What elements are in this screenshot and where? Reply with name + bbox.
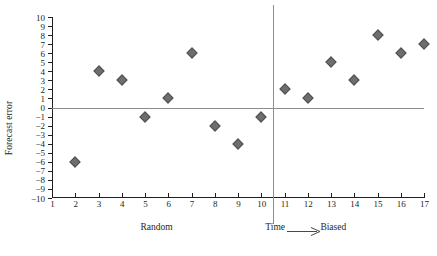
x-tick-label: 6 (167, 200, 172, 209)
x-tick-label: 4 (120, 200, 125, 209)
y-tick: 6 (48, 53, 52, 54)
x-tick-label: 16 (397, 200, 406, 209)
x-tick: 7 (192, 193, 193, 198)
x-tick: 12 (308, 193, 309, 198)
data-point (186, 48, 197, 59)
y-tick: −3 (48, 135, 52, 136)
x-tick: 13 (331, 193, 332, 198)
y-tick: −4 (48, 144, 52, 145)
x-tick: 15 (378, 193, 379, 198)
x-tick-label: 5 (143, 200, 148, 209)
data-point (372, 29, 383, 40)
x-tick: 3 (99, 193, 100, 198)
data-point (279, 84, 290, 95)
caption-random: Random (141, 222, 173, 232)
x-tick: 14 (354, 193, 355, 198)
y-tick: −2 (48, 126, 52, 127)
forecast-error-chart: Forecast error 109876543210−1−2−3−4−5−6−… (0, 0, 437, 256)
data-point (256, 111, 267, 122)
data-point (70, 156, 81, 167)
y-tick: 1 (48, 98, 52, 99)
y-tick: −1 (48, 117, 52, 118)
y-tick: 3 (48, 80, 52, 81)
y-axis-title: Forecast error (0, 0, 18, 256)
y-tick: 9 (48, 26, 52, 27)
x-tick: 5 (145, 193, 146, 198)
x-tick-label: 9 (236, 200, 241, 209)
x-tick-label: 2 (74, 200, 79, 209)
data-point (418, 38, 429, 49)
y-tick: 4 (48, 71, 52, 72)
data-point (163, 93, 174, 104)
x-tick: 11 (285, 193, 286, 198)
y-tick: 5 (48, 62, 52, 63)
y-tick-label: −10 (31, 194, 45, 203)
zero-reference-line (52, 108, 424, 109)
caption-time: Time (265, 222, 285, 232)
x-tick-label: 17 (420, 200, 429, 209)
plot-area: 109876543210−1−2−3−4−5−6−7−8−9−10 123456… (52, 17, 424, 198)
x-tick: 1 (52, 193, 53, 198)
data-point (302, 93, 313, 104)
y-tick: 10 (48, 17, 52, 18)
regime-divider-line (273, 5, 274, 224)
data-point (93, 66, 104, 77)
x-tick: 9 (238, 193, 239, 198)
data-point (232, 138, 243, 149)
y-tick: 7 (48, 44, 52, 45)
x-tick: 17 (424, 193, 425, 198)
y-tick: −5 (48, 153, 52, 154)
data-point (209, 120, 220, 131)
x-tick-label: 15 (374, 200, 383, 209)
y-tick: −6 (48, 162, 52, 163)
x-tick: 10 (261, 193, 262, 198)
x-tick: 16 (401, 193, 402, 198)
x-tick-label: 14 (350, 200, 359, 209)
x-tick-label: 12 (304, 200, 313, 209)
data-point (325, 57, 336, 68)
data-point (395, 48, 406, 59)
x-tick-label: 8 (213, 200, 218, 209)
x-tick-label: 1 (50, 200, 55, 209)
x-tick: 8 (215, 193, 216, 198)
x-axis-caption: Random Time Biased (52, 222, 424, 242)
y-tick: 8 (48, 35, 52, 36)
x-tick-label: 11 (281, 200, 290, 209)
right-arrow-icon (287, 227, 321, 236)
data-point (116, 75, 127, 86)
x-tick-label: 3 (97, 200, 102, 209)
data-point (349, 75, 360, 86)
x-tick-label: 13 (327, 200, 336, 209)
x-tick: 6 (168, 193, 169, 198)
y-tick: −8 (48, 180, 52, 181)
y-tick: 2 (48, 89, 52, 90)
y-tick: −9 (48, 189, 52, 190)
x-tick-label: 7 (190, 200, 195, 209)
y-tick: −7 (48, 171, 52, 172)
data-point (139, 111, 150, 122)
x-tick: 4 (122, 193, 123, 198)
x-tick-label: 10 (257, 200, 266, 209)
caption-biased: Biased (320, 222, 346, 232)
x-tick: 2 (75, 193, 76, 198)
